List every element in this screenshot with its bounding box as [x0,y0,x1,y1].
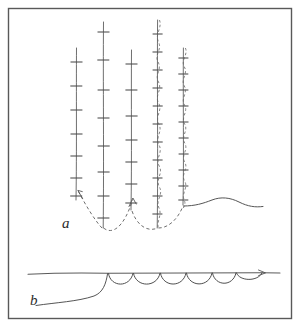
figure-root: a b [0,0,300,327]
panel-a-label: a [62,215,70,231]
filament-3-stem [131,50,132,210]
figure-canvas: a b [0,0,300,327]
figure-frame [9,9,292,319]
panel-b-label: b [30,292,38,308]
filament-1-stem [76,48,77,200]
